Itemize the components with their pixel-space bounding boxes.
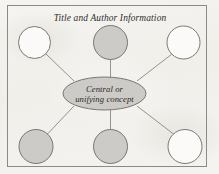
concept-map-diagram: Central or unifying concept Title and Au… bbox=[0, 0, 219, 174]
central-concept-label-line1: Central or bbox=[86, 84, 124, 94]
connector-center-to-top-right bbox=[137, 54, 172, 81]
satellite-node-top-right[interactable] bbox=[167, 26, 200, 59]
concept-map-figure: Central or unifying concept Title and Au… bbox=[0, 0, 219, 174]
satellite-node-top-left[interactable] bbox=[19, 27, 51, 59]
satellite-node-bottom-center[interactable] bbox=[94, 130, 128, 164]
connector-center-to-top-left bbox=[46, 54, 74, 81]
figure-title: Title and Author Information bbox=[54, 13, 167, 23]
satellite-node-bottom-left[interactable] bbox=[19, 130, 53, 164]
connector-center-to-bottom-right bbox=[137, 106, 174, 134]
satellite-node-top-center[interactable] bbox=[94, 26, 128, 60]
central-concept-label-line2: unifying concept bbox=[75, 94, 134, 104]
connector-center-to-bottom-left bbox=[48, 106, 75, 134]
satellite-node-bottom-right[interactable] bbox=[168, 130, 202, 164]
